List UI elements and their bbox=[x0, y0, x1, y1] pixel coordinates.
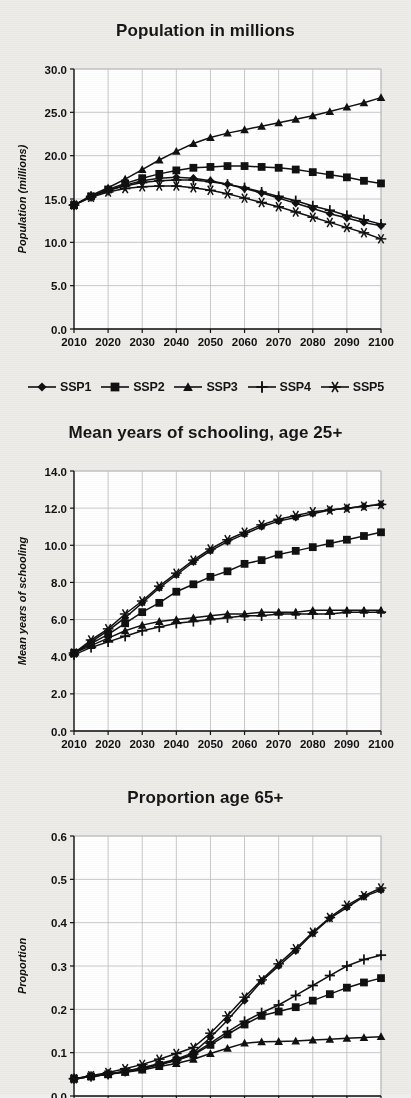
x-tick-label: 2040 bbox=[164, 336, 190, 348]
y-tick-label: 20.0 bbox=[45, 150, 67, 162]
y-tick-label: 0.4 bbox=[51, 917, 68, 929]
marker-square bbox=[241, 560, 249, 568]
x-tick-label: 2020 bbox=[95, 738, 121, 750]
y-tick-label: 4.0 bbox=[51, 651, 67, 663]
marker-square bbox=[326, 539, 334, 547]
y-tick-label: 14.0 bbox=[45, 465, 67, 477]
y-axis-label: Proportion bbox=[16, 937, 28, 993]
panel-population: Population in millions 0.05.010.015.020.… bbox=[0, 22, 411, 351]
marker-square bbox=[189, 164, 197, 172]
marker-square bbox=[275, 164, 283, 172]
y-tick-label: 30.0 bbox=[45, 63, 67, 75]
marker-square bbox=[343, 536, 351, 544]
chart-proportion: 0.00.10.20.30.40.50.6Proportion bbox=[0, 808, 411, 1098]
marker-square bbox=[360, 978, 368, 986]
y-tick-label: 0.3 bbox=[51, 960, 67, 972]
marker-square bbox=[377, 179, 385, 187]
marker-square bbox=[207, 573, 215, 581]
y-tick-label: 12.0 bbox=[45, 502, 67, 514]
marker-square bbox=[258, 556, 266, 564]
panel-title-population: Population in millions bbox=[0, 22, 411, 41]
marker-square bbox=[377, 974, 385, 982]
x-tick-label: 2070 bbox=[266, 738, 292, 750]
chart-population: 0.05.010.015.020.025.030.020102020203020… bbox=[0, 41, 411, 351]
y-tick-label: 0.0 bbox=[51, 323, 67, 335]
legend-label: SSP5 bbox=[353, 380, 384, 394]
legend-item-ssp2[interactable]: SSP2 bbox=[100, 379, 164, 395]
y-tick-label: 0.2 bbox=[51, 1004, 67, 1016]
legend-marker-diamond-icon bbox=[27, 379, 57, 395]
legend-item-ssp4[interactable]: SSP4 bbox=[247, 379, 311, 395]
legend-marker-asterisk-icon bbox=[320, 379, 350, 395]
marker-square bbox=[343, 983, 351, 991]
marker-square bbox=[258, 163, 266, 171]
y-tick-label: 5.0 bbox=[51, 280, 67, 292]
marker-square bbox=[292, 547, 300, 555]
marker-square bbox=[309, 543, 317, 551]
x-tick-label: 2010 bbox=[61, 738, 87, 750]
y-tick-label: 8.0 bbox=[51, 577, 67, 589]
marker-square bbox=[121, 619, 129, 627]
marker-square bbox=[377, 528, 385, 536]
x-tick-label: 2010 bbox=[61, 336, 87, 348]
y-axis-label: Mean years of schooling bbox=[16, 536, 28, 665]
chart-schooling: 0.02.04.06.08.010.012.014.02010202020302… bbox=[0, 443, 411, 753]
legend-label: SSP4 bbox=[280, 380, 311, 394]
y-tick-label: 6.0 bbox=[51, 614, 67, 626]
legend: SSP1SSP2SSP3SSP4SSP5 bbox=[0, 379, 411, 395]
x-tick-label: 2080 bbox=[300, 738, 326, 750]
marker-square bbox=[360, 532, 368, 540]
legend-label: SSP3 bbox=[206, 380, 237, 394]
legend-marker-plus-icon bbox=[247, 379, 277, 395]
y-tick-label: 25.0 bbox=[45, 107, 67, 119]
y-tick-label: 2.0 bbox=[51, 688, 67, 700]
y-tick-label: 0.5 bbox=[51, 874, 68, 886]
y-tick-label: 10.0 bbox=[45, 237, 67, 249]
marker-square bbox=[343, 173, 351, 181]
marker-square bbox=[111, 383, 120, 392]
x-tick-label: 2030 bbox=[129, 336, 155, 348]
x-tick-label: 2050 bbox=[198, 336, 224, 348]
y-tick-label: 0.6 bbox=[51, 830, 67, 842]
marker-square bbox=[138, 608, 146, 616]
y-tick-label: 15.0 bbox=[45, 193, 67, 205]
legend-item-ssp3[interactable]: SSP3 bbox=[173, 379, 237, 395]
marker-square bbox=[189, 580, 197, 588]
marker-square bbox=[207, 163, 215, 171]
marker-square bbox=[309, 996, 317, 1004]
chart-svg-population: 0.05.010.015.020.025.030.020102020203020… bbox=[0, 41, 411, 351]
marker-diamond bbox=[37, 382, 46, 391]
legend-item-ssp1[interactable]: SSP1 bbox=[27, 379, 91, 395]
marker-square bbox=[172, 166, 180, 174]
x-tick-label: 2080 bbox=[300, 336, 326, 348]
marker-square bbox=[224, 162, 232, 170]
marker-square bbox=[224, 567, 232, 575]
legend-item-ssp5[interactable]: SSP5 bbox=[320, 379, 384, 395]
marker-square bbox=[326, 171, 334, 179]
x-tick-label: 2070 bbox=[266, 336, 292, 348]
y-tick-label: 0.1 bbox=[51, 1047, 68, 1059]
x-tick-label: 2060 bbox=[232, 738, 258, 750]
x-tick-label: 2090 bbox=[334, 336, 360, 348]
chart-svg-proportion: 0.00.10.20.30.40.50.6Proportion bbox=[0, 808, 411, 1098]
x-tick-label: 2050 bbox=[198, 738, 224, 750]
legend-marker-triangle-icon bbox=[173, 379, 203, 395]
marker-square bbox=[275, 550, 283, 558]
legend-label: SSP2 bbox=[133, 380, 164, 394]
x-tick-label: 2090 bbox=[334, 738, 360, 750]
marker-square bbox=[292, 165, 300, 173]
marker-square bbox=[292, 1003, 300, 1011]
x-tick-label: 2100 bbox=[368, 738, 394, 750]
y-tick-label: 10.0 bbox=[45, 539, 67, 551]
x-tick-label: 2100 bbox=[368, 336, 394, 348]
marker-square bbox=[155, 599, 163, 607]
marker-square bbox=[309, 168, 317, 176]
panel-title-schooling: Mean years of schooling, age 25+ bbox=[0, 424, 411, 443]
marker-square bbox=[326, 990, 334, 998]
marker-square bbox=[241, 162, 249, 170]
x-tick-label: 2060 bbox=[232, 336, 258, 348]
legend-marker-square-icon bbox=[100, 379, 130, 395]
marker-asterisk bbox=[329, 382, 341, 392]
panel-title-proportion: Proportion age 65+ bbox=[0, 789, 411, 808]
marker-square bbox=[360, 177, 368, 185]
